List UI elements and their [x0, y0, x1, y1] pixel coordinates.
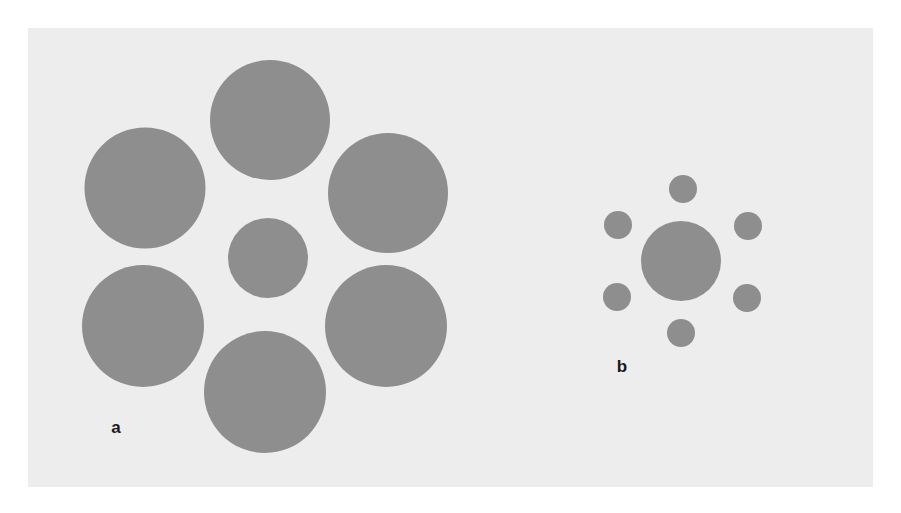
surround-circle-a — [328, 133, 448, 253]
surround-circle-a — [85, 128, 206, 249]
panel-label-b: b — [617, 357, 627, 377]
center-circle-a — [228, 218, 308, 298]
panel-label-a: a — [111, 418, 120, 438]
figure-panel — [28, 28, 873, 487]
surround-circle-a — [204, 331, 326, 453]
center-circle-b — [641, 221, 721, 301]
surround-circle-b — [669, 175, 697, 203]
surround-circle-b — [733, 284, 761, 312]
surround-circle-a — [210, 60, 330, 180]
surround-circle-b — [603, 283, 631, 311]
surround-circle-a — [325, 265, 447, 387]
surround-circle-b — [667, 319, 695, 347]
surround-circle-a — [82, 265, 204, 387]
surround-circle-b — [604, 211, 632, 239]
surround-circle-b — [734, 212, 762, 240]
